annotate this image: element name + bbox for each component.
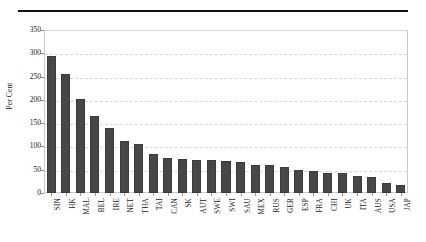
bar xyxy=(149,154,158,193)
x-tick-label: NET xyxy=(127,198,135,213)
bar xyxy=(353,176,362,193)
x-tick-mark xyxy=(197,193,198,196)
bar-series xyxy=(44,30,408,193)
bar xyxy=(76,99,85,193)
x-tick-mark xyxy=(328,193,329,196)
bar xyxy=(47,56,56,193)
bar xyxy=(396,185,405,193)
x-tick-mark xyxy=(313,193,314,196)
x-tick-mark xyxy=(124,193,125,196)
y-tick-label: 300 xyxy=(7,49,41,57)
bar xyxy=(120,141,129,193)
bar xyxy=(338,173,347,193)
x-tick-label: SWE xyxy=(214,198,222,214)
bar xyxy=(90,116,99,193)
x-tick-mark xyxy=(80,193,81,196)
x-tick-mark xyxy=(284,193,285,196)
x-tick-label: CAN xyxy=(171,198,179,214)
x-tick-label: SIN xyxy=(54,198,62,210)
bar xyxy=(192,160,201,193)
x-tick-mark xyxy=(401,193,402,196)
y-tick-label: 0 xyxy=(7,189,41,197)
y-tick-label: 350 xyxy=(7,26,41,34)
bar xyxy=(178,159,187,193)
y-tick-label: 150 xyxy=(7,119,41,127)
x-tick-label: UK xyxy=(345,198,353,209)
x-tick-label: MAL xyxy=(83,198,91,215)
x-tick-label: MEX xyxy=(258,198,266,215)
bar xyxy=(382,183,391,193)
bar xyxy=(251,165,260,193)
x-tick-mark xyxy=(182,193,183,196)
bar xyxy=(280,167,289,193)
bar xyxy=(236,162,245,193)
top-rule xyxy=(18,10,408,12)
bar xyxy=(163,158,172,193)
x-tick-mark xyxy=(153,193,154,196)
x-tick-label: GER xyxy=(287,198,295,213)
x-tick-label: CHI xyxy=(331,198,339,211)
x-tick-mark xyxy=(226,193,227,196)
bar xyxy=(207,160,216,193)
x-tick-label: SAU xyxy=(244,198,252,213)
x-tick-mark xyxy=(110,193,111,196)
x-tick-label: FRA xyxy=(316,198,324,213)
x-axis-labels: SINHKMALBELIRENETTHATAICANSKAUTSWESWISAU… xyxy=(44,193,408,242)
x-tick-label: ITA xyxy=(360,198,368,210)
bar xyxy=(221,161,230,193)
x-tick-mark xyxy=(211,193,212,196)
x-tick-label: USA xyxy=(389,198,397,213)
chart-figure: Per Cent 050100150200250300350 SINHKMALB… xyxy=(0,0,426,242)
x-tick-label: JAP xyxy=(404,198,412,211)
x-tick-label: AUT xyxy=(200,198,208,213)
x-tick-mark xyxy=(241,193,242,196)
x-tick-mark xyxy=(270,193,271,196)
x-tick-mark xyxy=(255,193,256,196)
y-tick-label: 250 xyxy=(7,73,41,81)
bar xyxy=(61,74,70,193)
x-tick-mark xyxy=(372,193,373,196)
x-tick-label: RUS xyxy=(273,198,281,213)
x-tick-label: HK xyxy=(69,198,77,209)
x-tick-label: TAI xyxy=(156,198,164,210)
bar xyxy=(265,165,274,193)
x-tick-mark xyxy=(342,193,343,196)
bar xyxy=(323,173,332,193)
bar xyxy=(134,144,143,193)
x-tick-label: SK xyxy=(185,198,193,208)
x-tick-mark xyxy=(299,193,300,196)
x-tick-label: ESP xyxy=(302,198,310,211)
x-tick-mark xyxy=(357,193,358,196)
x-tick-mark xyxy=(95,193,96,196)
y-tick-label: 200 xyxy=(7,96,41,104)
bar xyxy=(294,170,303,193)
y-tick-label: 50 xyxy=(7,166,41,174)
x-tick-label: THA xyxy=(142,198,150,213)
y-tick-label: 100 xyxy=(7,142,41,150)
x-tick-mark xyxy=(139,193,140,196)
x-tick-label: BEL xyxy=(98,198,106,212)
x-tick-label: SWI xyxy=(229,198,237,212)
x-tick-label: IRE xyxy=(113,198,121,210)
x-tick-mark xyxy=(168,193,169,196)
x-tick-mark xyxy=(386,193,387,196)
bar xyxy=(105,128,114,193)
x-tick-label: AUS xyxy=(375,198,383,213)
x-tick-mark xyxy=(51,193,52,196)
x-tick-mark xyxy=(66,193,67,196)
bar xyxy=(367,177,376,193)
bar xyxy=(309,171,318,193)
